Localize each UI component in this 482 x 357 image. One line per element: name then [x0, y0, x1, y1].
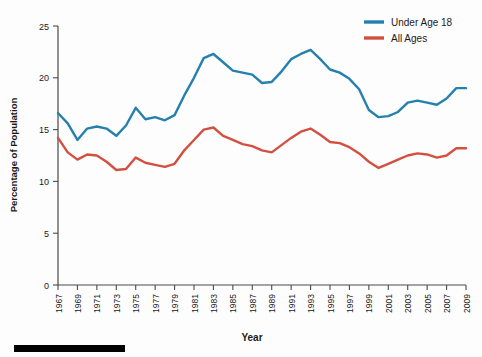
x-tick-label: 1991 — [287, 294, 297, 313]
y-tick-marks — [53, 26, 58, 285]
x-tick-label: 2007 — [442, 294, 452, 313]
x-tick-label: 1975 — [131, 294, 141, 313]
x-tick-label: 2009 — [462, 294, 472, 313]
chart-container: 0510152025 19671969197119731975197719791… — [0, 0, 482, 357]
x-tick-label: 1993 — [306, 294, 316, 313]
x-tick-label: 2001 — [384, 294, 394, 313]
line-chart: 0510152025 19671969197119731975197719791… — [0, 0, 482, 357]
x-tick-label: 2005 — [423, 294, 433, 313]
x-tick-label: 1983 — [209, 294, 219, 313]
y-tick-label: 15 — [39, 125, 49, 135]
x-tick-label: 1981 — [190, 294, 200, 313]
x-tick-label: 1969 — [73, 294, 83, 313]
series-line-under-age-18 — [58, 50, 466, 140]
y-tick-label: 10 — [39, 177, 49, 187]
x-tick-label: 1973 — [112, 294, 122, 313]
chart-legend: Under Age 18All Ages — [364, 17, 453, 44]
y-tick-label: 0 — [44, 281, 49, 291]
x-axis-title: Year — [241, 332, 262, 343]
x-tick-label: 1999 — [364, 294, 374, 313]
x-tick-labels: 1967196919711973197519771979198119831985… — [54, 294, 472, 313]
legend-label-1: All Ages — [391, 33, 427, 44]
scale-bar — [14, 345, 125, 352]
x-tick-marks — [58, 285, 466, 290]
legend-label-0: Under Age 18 — [391, 17, 453, 28]
y-tick-labels: 0510152025 — [39, 22, 49, 291]
y-axis-title: Percentage of Population — [8, 98, 19, 213]
x-tick-label: 1997 — [345, 294, 355, 313]
x-tick-label: 1987 — [248, 294, 258, 313]
y-tick-label: 5 — [44, 229, 49, 239]
x-tick-label: 1985 — [228, 294, 238, 313]
x-tick-label: 2003 — [403, 294, 413, 313]
x-tick-label: 1967 — [54, 294, 64, 313]
data-series-group — [58, 50, 466, 170]
y-tick-label: 20 — [39, 73, 49, 83]
x-tick-label: 1989 — [267, 294, 277, 313]
y-tick-label: 25 — [39, 22, 49, 32]
x-tick-label: 1977 — [151, 294, 161, 313]
x-tick-label: 1971 — [92, 294, 102, 313]
x-tick-label: 1979 — [170, 294, 180, 313]
x-tick-label: 1995 — [326, 294, 336, 313]
